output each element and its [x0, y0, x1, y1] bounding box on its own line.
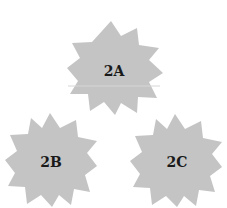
star-label-2b: 2B: [40, 154, 62, 170]
figure-canvas: 2A 2B 2C: [0, 0, 227, 208]
star-label-2a: 2A: [104, 63, 125, 79]
star-label-2c: 2C: [167, 154, 188, 170]
stars-graphic: [0, 0, 227, 208]
